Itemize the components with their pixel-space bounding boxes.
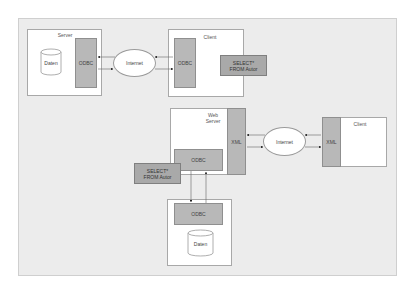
connection-lines [0,0,413,292]
